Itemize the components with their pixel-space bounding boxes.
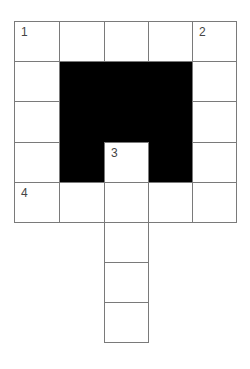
cell-r1-c0[interactable] bbox=[14, 61, 60, 102]
cell-r0-c3[interactable] bbox=[148, 21, 193, 62]
cell-r7-c2[interactable] bbox=[104, 302, 149, 343]
cell-r0-c0[interactable]: 1 bbox=[14, 21, 60, 62]
black-block bbox=[148, 142, 192, 182]
black-block bbox=[59, 142, 104, 182]
cell-r3-c4[interactable] bbox=[192, 142, 237, 183]
cell-r4-c0[interactable]: 4 bbox=[14, 182, 60, 223]
cell-r0-c2[interactable] bbox=[104, 21, 149, 62]
cell-r3-c0[interactable] bbox=[14, 142, 60, 183]
cell-r5-c2[interactable] bbox=[104, 222, 149, 263]
cell-r1-c4[interactable] bbox=[192, 61, 237, 102]
black-block bbox=[59, 61, 192, 142]
cell-r0-c1[interactable] bbox=[59, 21, 105, 62]
cell-r4-c4[interactable] bbox=[192, 182, 237, 223]
cell-r4-c1[interactable] bbox=[59, 182, 105, 223]
clue-number: 2 bbox=[199, 26, 206, 38]
cell-r0-c4[interactable]: 2 bbox=[192, 21, 237, 62]
clue-number: 3 bbox=[111, 147, 118, 159]
cell-r4-c3[interactable] bbox=[148, 182, 193, 223]
cell-r4-c2[interactable] bbox=[104, 182, 149, 223]
clue-number: 4 bbox=[21, 187, 28, 199]
cell-r6-c2[interactable] bbox=[104, 262, 149, 303]
clue-number: 1 bbox=[21, 26, 28, 38]
crossword-grid: 1 2 3 4 bbox=[0, 0, 250, 369]
cell-r3-c2[interactable]: 3 bbox=[104, 142, 149, 183]
cell-r2-c0[interactable] bbox=[14, 101, 60, 143]
cell-r2-c4[interactable] bbox=[192, 101, 237, 143]
